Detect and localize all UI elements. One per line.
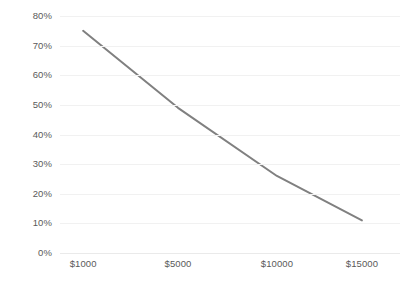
x-tick-label: $5000 xyxy=(165,258,192,269)
plot-area xyxy=(60,16,400,253)
line-chart: 0%10%20%30%40%50%60%70%80% $1000$5000$10… xyxy=(0,0,417,286)
gridline xyxy=(60,194,400,195)
gridline xyxy=(60,135,400,136)
y-tick-label: 60% xyxy=(6,70,52,80)
y-axis: 0%10%20%30%40%50%60%70%80% xyxy=(0,16,52,253)
gridline xyxy=(60,164,400,165)
y-tick-label: 70% xyxy=(6,41,52,51)
gridline xyxy=(60,223,400,224)
y-tick-label: 80% xyxy=(6,11,52,21)
gridline xyxy=(60,46,400,47)
x-tick-label: $10000 xyxy=(261,258,293,269)
x-tick-label: $1000 xyxy=(70,258,97,269)
y-tick-label: 30% xyxy=(6,159,52,169)
y-tick-label: 20% xyxy=(6,189,52,199)
series-line xyxy=(83,31,362,221)
y-tick-label: 10% xyxy=(6,218,52,228)
x-tick-label: $15000 xyxy=(346,258,378,269)
gridline xyxy=(60,105,400,106)
y-tick-label: 50% xyxy=(6,100,52,110)
y-tick-label: 0% xyxy=(6,248,52,258)
x-axis: $1000$5000$10000$15000 xyxy=(60,258,400,276)
gridline xyxy=(60,16,400,17)
gridline xyxy=(60,253,400,254)
gridline xyxy=(60,75,400,76)
y-tick-label: 40% xyxy=(6,130,52,140)
